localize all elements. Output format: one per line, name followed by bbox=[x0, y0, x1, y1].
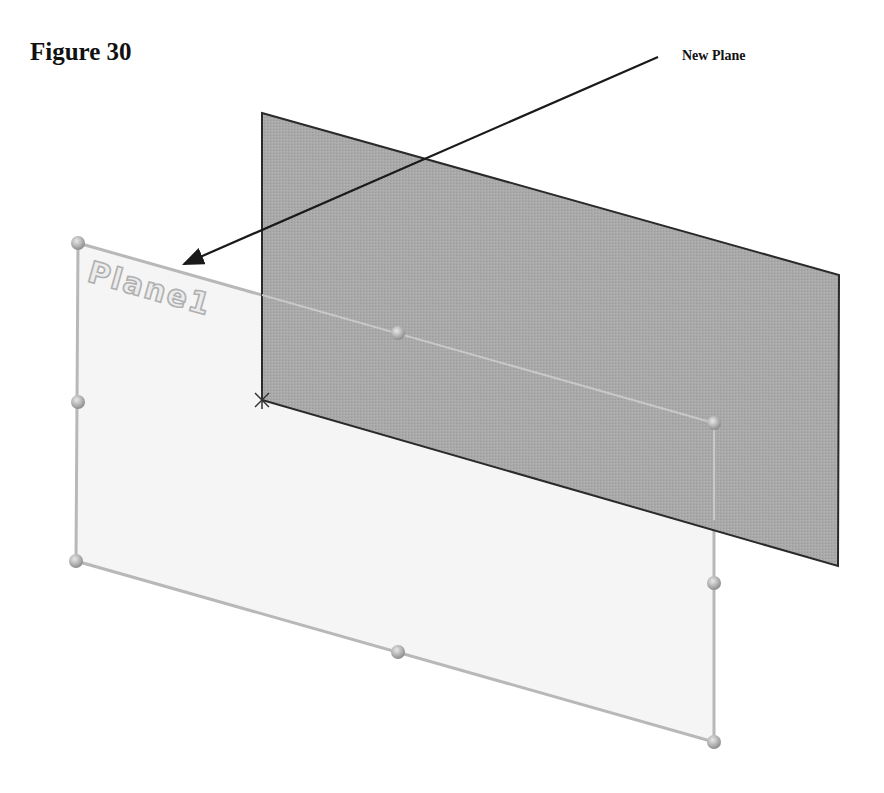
handle-icon[interactable] bbox=[71, 236, 85, 250]
handle-icon[interactable] bbox=[707, 416, 721, 430]
handle-icon[interactable] bbox=[707, 576, 721, 590]
handle-icon[interactable] bbox=[707, 735, 721, 749]
handle-icon[interactable] bbox=[69, 554, 83, 568]
handle-icon[interactable] bbox=[71, 395, 85, 409]
handle-icon[interactable] bbox=[391, 645, 405, 659]
handle-icon[interactable] bbox=[391, 326, 405, 340]
diagram-canvas: Plane1 bbox=[0, 0, 884, 793]
